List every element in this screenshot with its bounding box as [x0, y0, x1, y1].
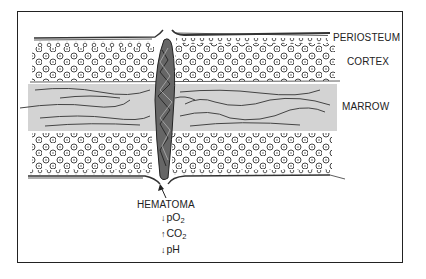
- down-arrow-icon: ↓: [161, 213, 166, 223]
- cortex-bottom: [32, 133, 332, 170]
- up-arrow-icon: ↑: [161, 229, 166, 239]
- po2-decrease: ↓pO2: [161, 211, 185, 225]
- hematoma-pointer-arrow: [158, 184, 166, 198]
- periosteum-label: PERIOSTEUM: [333, 32, 400, 43]
- cortex-top: [30, 44, 340, 82]
- periosteum-bottom: [28, 170, 345, 184]
- co2-increase: ↑CO2: [161, 227, 186, 241]
- marrow-band: [20, 84, 337, 131]
- down-arrow-icon: ↓: [161, 245, 166, 255]
- ph-decrease: ↓pH: [161, 243, 180, 257]
- hematoma: [155, 39, 175, 180]
- hematoma-label: HEMATOMA: [137, 199, 195, 210]
- marrow-label: MARROW: [342, 101, 389, 112]
- cortex-label: CORTEX: [347, 56, 389, 67]
